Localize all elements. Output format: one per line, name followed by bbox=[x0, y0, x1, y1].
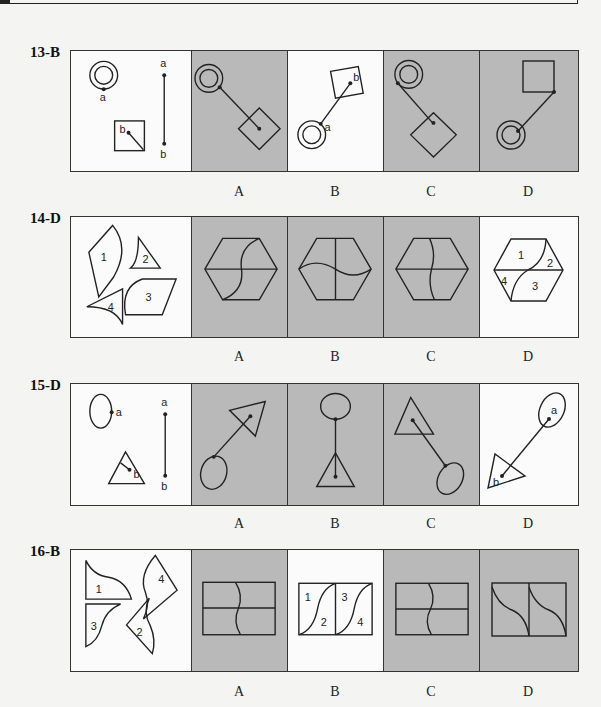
option-b-figure: 1 2 3 4 bbox=[288, 550, 383, 671]
option-d-label[interactable]: D bbox=[479, 349, 577, 365]
option-c-label[interactable]: C bbox=[383, 516, 479, 532]
figure-strip: 1 3 4 2 1 2 3 bbox=[70, 549, 579, 672]
option-d-panel[interactable]: a b bbox=[480, 384, 578, 505]
svg-text:4: 4 bbox=[501, 275, 507, 287]
svg-text:b: b bbox=[160, 148, 166, 160]
option-b-label[interactable]: B bbox=[287, 349, 383, 365]
option-b-figure bbox=[288, 384, 383, 505]
option-a-panel[interactable] bbox=[192, 217, 288, 337]
svg-text:2: 2 bbox=[142, 253, 148, 265]
svg-text:2: 2 bbox=[136, 626, 142, 638]
svg-text:a: a bbox=[551, 404, 558, 416]
svg-text:2: 2 bbox=[321, 616, 327, 628]
prompt-figure: 1 3 4 2 bbox=[71, 550, 191, 671]
prompt-figure: a b a b bbox=[71, 51, 191, 171]
option-a-figure bbox=[192, 384, 287, 505]
option-labels: A B C D bbox=[70, 516, 577, 532]
option-b-panel[interactable] bbox=[288, 217, 384, 337]
option-c-figure bbox=[384, 217, 479, 337]
option-d-panel[interactable] bbox=[480, 51, 578, 171]
option-a-panel[interactable] bbox=[192, 550, 288, 671]
option-c-panel[interactable] bbox=[384, 384, 480, 505]
option-c-panel[interactable] bbox=[384, 217, 480, 337]
svg-text:1: 1 bbox=[101, 251, 107, 263]
option-c-label[interactable]: C bbox=[383, 184, 479, 200]
option-d-figure bbox=[480, 550, 578, 671]
option-d-panel[interactable] bbox=[480, 550, 578, 671]
option-d-figure: 1 2 3 4 bbox=[480, 217, 578, 337]
option-c-figure bbox=[384, 51, 479, 171]
prompt-panel: a b a b bbox=[71, 384, 192, 505]
option-c-panel[interactable] bbox=[384, 550, 480, 671]
prompt-figure: 1 2 3 4 bbox=[71, 217, 191, 337]
figure-strip: 1 2 3 4 bbox=[70, 216, 579, 338]
top-frame-edge bbox=[0, 0, 578, 4]
svg-text:4: 4 bbox=[108, 301, 114, 313]
question-label: 16-B bbox=[30, 543, 60, 560]
option-a-label[interactable]: A bbox=[191, 184, 287, 200]
prompt-panel: 1 2 3 4 bbox=[71, 217, 192, 337]
option-c-figure bbox=[384, 384, 479, 505]
option-a-panel[interactable] bbox=[192, 51, 288, 171]
svg-text:b: b bbox=[161, 480, 167, 492]
option-labels: A B C D bbox=[70, 684, 577, 700]
option-d-label[interactable]: D bbox=[479, 684, 577, 700]
svg-text:1: 1 bbox=[518, 249, 524, 261]
option-labels: A B C D bbox=[70, 184, 577, 200]
svg-text:4: 4 bbox=[357, 616, 363, 628]
prompt-panel: a b a b bbox=[71, 51, 192, 171]
svg-text:a: a bbox=[160, 57, 167, 69]
option-a-figure bbox=[192, 550, 287, 671]
svg-text:b: b bbox=[133, 468, 139, 480]
option-c-label[interactable]: C bbox=[383, 684, 479, 700]
option-b-panel[interactable]: 1 2 3 4 bbox=[288, 550, 384, 671]
svg-text:b: b bbox=[353, 71, 359, 83]
option-labels: A B C D bbox=[70, 349, 577, 365]
option-b-figure bbox=[288, 217, 383, 337]
svg-text:a: a bbox=[100, 91, 107, 103]
svg-text:3: 3 bbox=[532, 280, 538, 292]
top-frame-corner bbox=[0, 0, 10, 4]
option-a-figure bbox=[192, 51, 287, 171]
prompt-figure: a b a b bbox=[71, 384, 191, 505]
svg-text:3: 3 bbox=[91, 620, 97, 632]
svg-text:a: a bbox=[116, 406, 123, 418]
option-a-label[interactable]: A bbox=[191, 349, 287, 365]
prompt-panel: 1 3 4 2 bbox=[71, 550, 192, 671]
option-d-figure: a b bbox=[480, 384, 578, 505]
option-c-figure bbox=[384, 550, 479, 671]
question-label: 14-D bbox=[30, 210, 61, 227]
option-a-figure bbox=[192, 217, 287, 337]
option-b-label[interactable]: B bbox=[287, 516, 383, 532]
option-d-panel[interactable]: 1 2 3 4 bbox=[480, 217, 578, 337]
svg-text:b: b bbox=[120, 123, 126, 135]
option-a-label[interactable]: A bbox=[191, 516, 287, 532]
option-a-panel[interactable] bbox=[192, 384, 288, 505]
option-c-panel[interactable] bbox=[384, 51, 480, 171]
svg-text:4: 4 bbox=[158, 573, 164, 585]
option-d-figure bbox=[480, 51, 578, 171]
option-b-figure: b a bbox=[288, 51, 383, 171]
option-d-label[interactable]: D bbox=[479, 184, 577, 200]
figure-strip: a b a b bbox=[70, 383, 579, 506]
figure-strip: a b a b bbox=[70, 50, 579, 172]
option-b-panel[interactable]: b a bbox=[288, 51, 384, 171]
option-b-label[interactable]: B bbox=[287, 184, 383, 200]
svg-text:3: 3 bbox=[145, 291, 151, 303]
option-a-label[interactable]: A bbox=[191, 684, 287, 700]
option-d-label[interactable]: D bbox=[479, 516, 577, 532]
svg-text:3: 3 bbox=[341, 591, 347, 603]
option-b-label[interactable]: B bbox=[287, 684, 383, 700]
svg-text:1: 1 bbox=[96, 583, 102, 595]
question-label: 13-B bbox=[30, 44, 60, 61]
svg-text:a: a bbox=[161, 396, 168, 408]
question-label: 15-D bbox=[30, 377, 61, 394]
svg-text:a: a bbox=[325, 121, 332, 133]
svg-text:2: 2 bbox=[547, 257, 553, 269]
option-b-panel[interactable] bbox=[288, 384, 384, 505]
svg-text:b: b bbox=[493, 476, 499, 488]
option-c-label[interactable]: C bbox=[383, 349, 479, 365]
svg-text:1: 1 bbox=[305, 591, 311, 603]
